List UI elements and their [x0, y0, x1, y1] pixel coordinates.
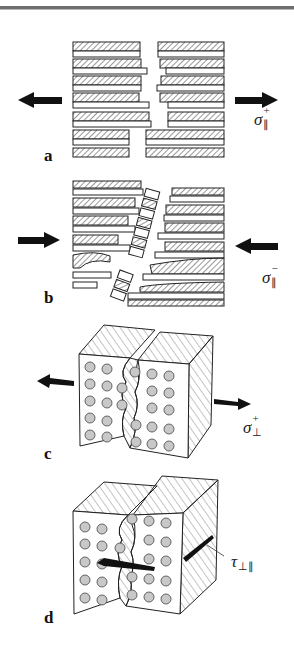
arrow-left-icon [18, 92, 62, 108]
symbol-sigma-parallel-tension: σ+∥ [254, 110, 272, 130]
symbol-sub: ∥ [263, 118, 269, 131]
symbol-sub: ⊥∥ [238, 560, 254, 573]
arrow-right-icon [235, 92, 278, 108]
panel-label-c: c [44, 444, 52, 464]
panel-a-drawing [18, 42, 278, 157]
symbol-base: σ [254, 110, 262, 129]
panel-label-a: a [44, 146, 53, 166]
symbol-sup: + [263, 104, 269, 116]
arrow-right-icon [214, 398, 251, 410]
arrow-right-icon [18, 232, 60, 248]
symbol-base: σ [243, 418, 251, 437]
symbol-tau-shear: τ⊥∥ [231, 552, 255, 572]
symbol-sup: + [252, 412, 258, 424]
panel-c-drawing [37, 325, 251, 458]
panel-label-d: d [44, 608, 53, 628]
panel-d-drawing [73, 476, 224, 614]
arrow-left-icon [37, 374, 74, 388]
symbol-base: σ [262, 268, 270, 287]
symbol-sigma-parallel-compression: σ−∥ [262, 268, 280, 288]
symbol-sigma-perpendicular-tension: σ+⊥ [243, 418, 261, 438]
symbol-sup: − [271, 262, 277, 274]
panel-b-drawing [18, 181, 278, 306]
symbol-sub: ⊥ [252, 426, 262, 439]
panel-label-b: b [44, 288, 53, 308]
arrow-left-icon [235, 238, 278, 254]
symbol-sub: ∥ [271, 276, 277, 289]
